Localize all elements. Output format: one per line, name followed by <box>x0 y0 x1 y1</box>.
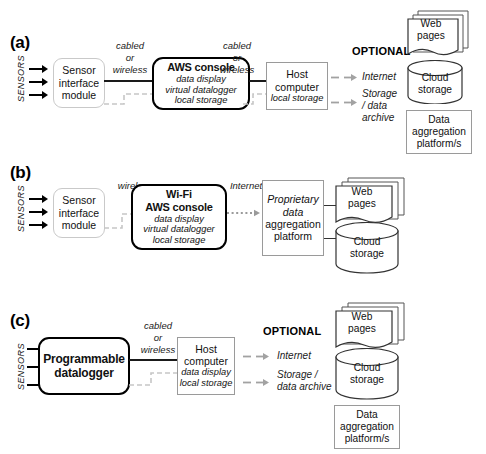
conn-line: wireless <box>212 64 262 76</box>
conn-line: or <box>212 52 262 64</box>
block-sub: local storage <box>180 378 233 389</box>
block-line: interface <box>59 77 99 89</box>
block-title: Wi-Fi <box>166 188 192 201</box>
cable-link-a2 <box>249 80 266 82</box>
block-line: module <box>62 219 96 231</box>
programmable-datalogger-c: Programmable datalogger <box>38 337 130 395</box>
sensor-arrow-icon <box>29 211 43 213</box>
sensor-arrow-icon <box>29 224 43 226</box>
panel-letter-c: (c) <box>10 311 30 331</box>
sensor-interface-module-b: Sensor interface module <box>53 188 105 238</box>
wifi-aws-console-b: Wi-Fi AWS console data display virtual d… <box>131 184 227 250</box>
block-line: module <box>62 89 96 101</box>
web-pages-icon-b <box>332 175 412 227</box>
conn-line: cabled <box>105 40 155 52</box>
sensors-label-b: SENSORS <box>16 185 26 232</box>
block-sub: virtual datalogger <box>143 224 214 235</box>
connector-label-cabled-or-wireless-a1: cabled or wireless <box>105 40 155 76</box>
conn-line: cabled <box>133 320 183 332</box>
dest-line: Storage <box>362 88 397 100</box>
block-line: data <box>283 206 303 218</box>
wireless-link-a2 <box>243 86 267 108</box>
dest-line: Storage / <box>277 369 331 381</box>
data-aggregation-platform-c: Data aggregation platform/s <box>334 405 400 449</box>
stencil-line: Data <box>356 409 378 421</box>
block-line: Sensor <box>62 194 95 206</box>
dest-line: data archive <box>277 381 331 393</box>
block-sub: data display <box>181 367 231 378</box>
block-line: Proprietary <box>267 193 318 205</box>
internet-dotted-link-b <box>227 208 261 218</box>
sensor-interface-module-a: Sensor interface module <box>53 58 105 108</box>
sensor-arrow-icon <box>29 198 43 200</box>
conn-line: wireless <box>133 344 183 356</box>
dest-line: archive <box>362 112 397 124</box>
block-line: Host <box>286 68 308 80</box>
stencil-line: aggregation <box>412 126 466 138</box>
block-line: platform <box>274 230 312 242</box>
block-title: datalogger <box>54 366 113 380</box>
block-sub: data display <box>154 214 204 225</box>
conn-line: wireless <box>105 64 155 76</box>
host-computer-a: Host computer local storage <box>266 62 328 110</box>
block-title: AWS console <box>145 201 212 214</box>
dest-line: Internet <box>362 71 396 83</box>
data-aggregation-platform-a: Data aggregation platform/s <box>406 110 472 154</box>
block-line: interface <box>59 207 99 219</box>
web-pages-icon-c <box>332 300 412 354</box>
dashed-arrow-icon <box>331 73 359 82</box>
block-sub: local storage <box>153 235 206 246</box>
block-line: aggregation <box>265 218 320 230</box>
sensors-label-a: SENSORS <box>16 55 26 102</box>
block-line: Host <box>195 343 217 355</box>
cloud-storage-icon-c <box>334 348 400 400</box>
cloud-storage-icon-b <box>334 222 400 274</box>
block-title: Programmable <box>43 352 125 366</box>
dest-line: / data <box>362 100 397 112</box>
dashed-arrow-icon <box>331 98 359 107</box>
conn-line: or <box>105 52 155 64</box>
block-line: computer <box>275 81 319 93</box>
connector-label-cabled-or-wireless-a2: cabled or wireless <box>212 40 262 76</box>
stencil-line: platform/s <box>345 433 390 445</box>
cable-link-a1 <box>104 80 152 82</box>
stencil-line: aggregation <box>340 421 394 433</box>
dest-line: Internet <box>277 350 311 362</box>
optional-label-a: OPTIONAL <box>352 45 410 57</box>
sensor-arrow-icon <box>29 68 43 70</box>
optional-destination-storage-a: Storage / data archive <box>362 88 397 125</box>
sensors-label-c: SENSORS <box>16 343 26 390</box>
conn-line: cabled <box>212 40 262 52</box>
sensor-arrow-icon <box>29 81 43 83</box>
optional-label-c: OPTIONAL <box>263 325 321 337</box>
block-sub: local storage <box>271 93 324 104</box>
optional-destination-internet-c: Internet <box>277 350 311 362</box>
dashed-arrow-icon <box>243 352 271 361</box>
conn-line: or <box>133 332 183 344</box>
figure-canvas: (a) SENSORS Sensor interface module cabl… <box>0 0 486 454</box>
panel-letter-a: (a) <box>10 33 30 53</box>
web-pages-icon-a <box>404 8 476 60</box>
cloud-storage-icon-a <box>406 60 464 104</box>
cable-link-c <box>129 359 177 361</box>
wireless-link-a1 <box>104 86 154 108</box>
optional-destination-internet-a: Internet <box>362 71 396 83</box>
dashed-arrow-icon <box>243 378 271 387</box>
block-sub: virtual datalogger <box>165 85 236 96</box>
connector-label-cabled-or-wireless-c: cabled or wireless <box>133 320 183 356</box>
block-line: Sensor <box>62 64 95 76</box>
sensor-arrow-icon <box>29 94 43 96</box>
proprietary-platform-b: Proprietary data aggregation platform <box>262 180 324 256</box>
stencil-line: platform/s <box>417 138 462 150</box>
panel-letter-b: (b) <box>10 163 31 183</box>
host-computer-c: Host computer data display local storage <box>177 337 235 395</box>
wireless-link-c <box>129 365 179 389</box>
block-sub: local storage <box>175 95 228 106</box>
optional-destination-storage-c: Storage / data archive <box>277 369 331 393</box>
block-line: computer <box>184 355 228 367</box>
stencil-line: Data <box>428 114 450 126</box>
